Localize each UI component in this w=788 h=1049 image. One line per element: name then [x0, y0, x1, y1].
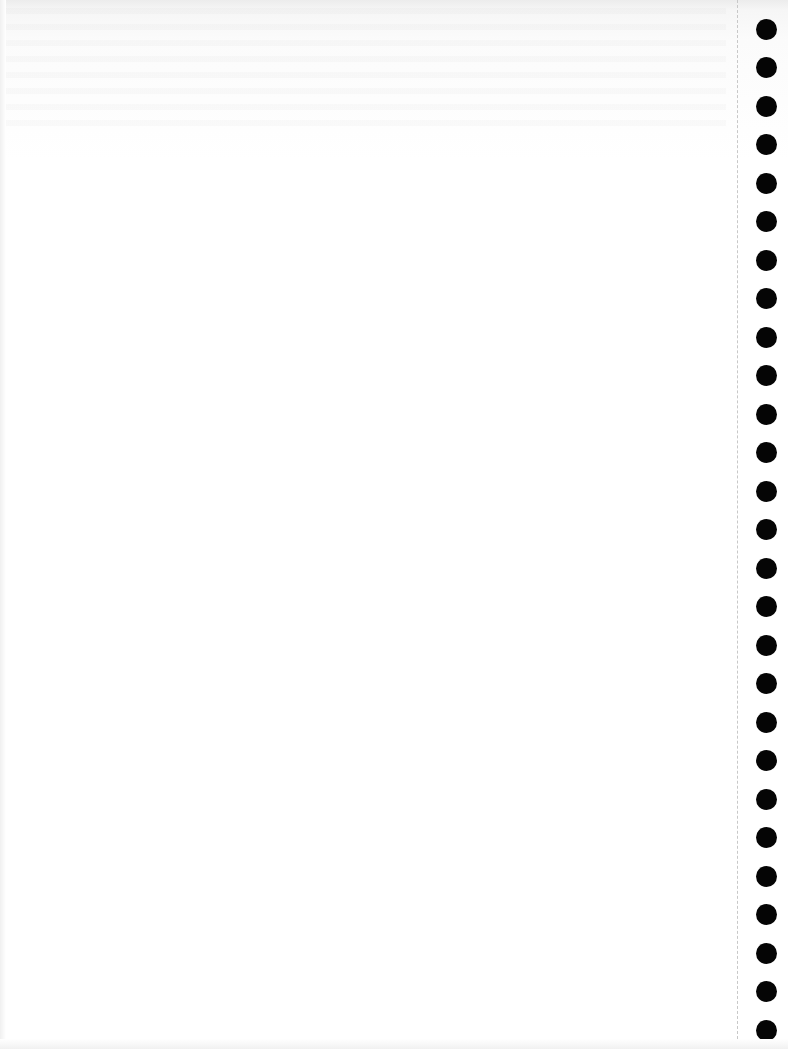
- binder-hole-icon: [756, 673, 777, 694]
- binder-hole-icon: [756, 365, 777, 386]
- binder-hole-icon: [756, 827, 777, 848]
- binder-hole-icon: [756, 981, 777, 1002]
- binder-hole-icon: [756, 789, 777, 810]
- binder-hole-icon: [756, 519, 777, 540]
- binder-hole-icon: [756, 442, 777, 463]
- binder-hole-icon: [756, 904, 777, 925]
- binder-hole-icon: [756, 635, 777, 656]
- binder-hole-icon: [756, 712, 777, 733]
- faint-bleed-through: [6, 8, 726, 133]
- binder-hole-icon: [756, 596, 777, 617]
- binder-hole-icon: [756, 250, 777, 271]
- binder-hole-icon: [756, 327, 777, 348]
- binder-hole-icon: [756, 750, 777, 771]
- binder-hole-icon: [756, 943, 777, 964]
- binder-hole-icon: [756, 134, 777, 155]
- binder-hole-icon: [756, 57, 777, 78]
- binder-hole-icon: [756, 19, 777, 40]
- binder-hole-icon: [756, 288, 777, 309]
- binder-hole-icon: [756, 173, 777, 194]
- scan-left-edge: [0, 0, 6, 1049]
- binder-hole-icon: [756, 404, 777, 425]
- perforation-line: [737, 0, 738, 1049]
- scan-bottom-edge: [0, 1039, 788, 1049]
- binder-hole-icon: [756, 96, 777, 117]
- blank-page: [0, 0, 788, 1049]
- binder-hole-icon: [756, 558, 777, 579]
- binder-hole-icon: [756, 481, 777, 502]
- binder-hole-icon: [756, 211, 777, 232]
- binder-hole-strip: [752, 0, 788, 1049]
- binder-hole-icon: [756, 866, 777, 887]
- binder-hole-icon: [756, 1020, 777, 1041]
